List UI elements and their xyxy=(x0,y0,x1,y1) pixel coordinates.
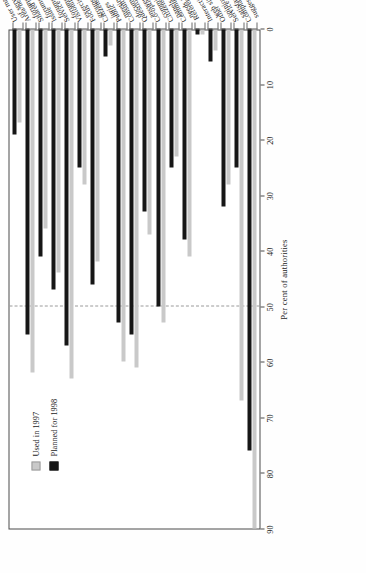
bar-planned-1998 xyxy=(234,28,238,167)
value-axis-title: Per cent of authorities xyxy=(278,29,288,529)
category-tick-icon xyxy=(129,22,140,29)
value-axis-tick-label: 10 xyxy=(265,80,274,88)
bar-used-1997 xyxy=(69,28,73,378)
rotated-figure-container: Used in 1997 Planned for 1998 User manag… xyxy=(0,0,366,573)
category-tick-icon xyxy=(168,22,179,29)
bar-planned-1998 xyxy=(156,28,160,306)
bar-planned-1998 xyxy=(12,28,16,134)
bar-used-1997 xyxy=(213,28,217,50)
bar-used-1997 xyxy=(95,28,99,261)
category-tick-icon xyxy=(233,22,244,29)
value-axis-tick xyxy=(260,139,264,140)
category-tick-icon xyxy=(116,22,127,29)
bar-planned-1998 xyxy=(103,28,107,56)
bar-planned-1998 xyxy=(116,28,120,322)
chart-legend: Used in 1997 Planned for 1998 xyxy=(31,398,67,470)
bar-planned-1998 xyxy=(64,28,68,345)
value-axis-tick-label: 70 xyxy=(265,414,274,422)
category-tick-icon xyxy=(220,22,231,29)
category-tick-icon xyxy=(38,22,49,29)
black-swatch-icon xyxy=(49,461,58,470)
bar-used-1997 xyxy=(226,28,230,184)
bar-used-1997 xyxy=(239,28,243,400)
category-tick-icon xyxy=(194,22,205,29)
value-axis-tick xyxy=(260,195,264,196)
category-tick-icon xyxy=(181,22,192,29)
value-axis-tick xyxy=(260,361,264,362)
bar-group xyxy=(102,30,113,528)
bar-planned-1998 xyxy=(51,28,55,289)
bar-planned-1998 xyxy=(182,28,186,239)
bar-group xyxy=(89,30,100,528)
value-axis-tick-label: 40 xyxy=(265,247,274,255)
category-tick-icon xyxy=(155,22,166,29)
bar-used-1997 xyxy=(30,28,34,372)
bar-used-1997 xyxy=(56,28,60,272)
bar-planned-1998 xyxy=(247,28,251,450)
bar-group xyxy=(220,30,231,528)
bar-group xyxy=(194,30,205,528)
value-axis-tick-label: 90 xyxy=(265,525,274,533)
value-axis-tick-label: 30 xyxy=(265,191,274,199)
bar-group xyxy=(11,30,22,528)
category-tick-icon xyxy=(51,22,62,29)
bar-planned-1998 xyxy=(25,28,29,334)
category-tick-icon xyxy=(25,22,36,29)
chart-page: Used in 1997 Planned for 1998 User manag… xyxy=(0,0,366,573)
category-tick-icon xyxy=(142,22,153,29)
value-axis-tick xyxy=(260,84,264,85)
legend-item-planned-1998: Planned for 1998 xyxy=(49,398,58,470)
bar-used-1997 xyxy=(43,28,47,228)
value-axis-tick xyxy=(260,306,264,307)
bar-used-1997 xyxy=(121,28,125,361)
value-axis-tick xyxy=(260,417,264,418)
bar-used-1997 xyxy=(252,28,256,528)
value-axis-tick xyxy=(260,28,264,29)
value-axis-tick-label: 60 xyxy=(265,358,274,366)
bar-used-1997 xyxy=(147,28,151,234)
bar-planned-1998 xyxy=(129,28,133,334)
value-axis-tick-label: 20 xyxy=(265,136,274,144)
bar-group xyxy=(128,30,139,528)
bar-planned-1998 xyxy=(90,28,94,284)
bar-planned-1998 xyxy=(221,28,225,206)
bar-used-1997 xyxy=(174,28,178,156)
legend-label-used-1997: Used in 1997 xyxy=(31,411,40,456)
bar-used-1997 xyxy=(17,28,21,122)
legend-item-used-1997: Used in 1997 xyxy=(31,398,40,470)
category-tick-icon xyxy=(77,22,88,29)
value-axis-tick xyxy=(260,472,264,473)
category-tick-icon xyxy=(207,22,218,29)
bar-planned-1998 xyxy=(169,28,173,167)
category-tick-icon xyxy=(103,22,114,29)
value-axis-tick xyxy=(260,250,264,251)
bar-used-1997 xyxy=(134,28,138,367)
plot-area: Used in 1997 Planned for 1998 xyxy=(8,29,260,529)
bar-group xyxy=(155,30,166,528)
bar-used-1997 xyxy=(187,28,191,256)
bar-group xyxy=(76,30,87,528)
category-tick-icon xyxy=(12,22,23,29)
value-axis-tick-label: 0 xyxy=(265,27,274,31)
category-tick-icon xyxy=(64,22,75,29)
legend-label-planned-1998: Planned for 1998 xyxy=(49,398,58,456)
bar-group xyxy=(233,30,244,528)
category-tick-icon xyxy=(90,22,101,29)
bar-planned-1998 xyxy=(208,28,212,61)
value-axis-tick xyxy=(260,528,264,529)
light-gray-swatch-icon xyxy=(31,461,40,470)
bar-group xyxy=(115,30,126,528)
category-tick-icon xyxy=(246,22,257,29)
bar-group xyxy=(168,30,179,528)
bar-planned-1998 xyxy=(38,28,42,256)
bar-chart-figure: Used in 1997 Planned for 1998 User manag… xyxy=(0,0,366,573)
bar-group xyxy=(246,30,257,528)
bar-planned-1998 xyxy=(77,28,81,167)
bar-group xyxy=(181,30,192,528)
bar-used-1997 xyxy=(161,28,165,322)
value-axis-tick-label: 50 xyxy=(265,303,274,311)
bar-used-1997 xyxy=(108,28,112,45)
bar-group xyxy=(141,30,152,528)
value-axis-tick-label: 80 xyxy=(265,469,274,477)
bar-group xyxy=(207,30,218,528)
